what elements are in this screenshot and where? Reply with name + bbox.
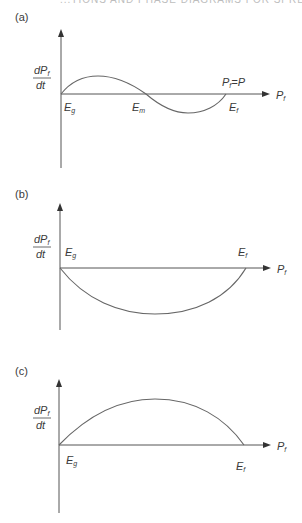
- panel-b: (b) dPf dt Pf Eg Ef: [15, 188, 287, 330]
- svg-text:dPf: dPf: [34, 404, 50, 417]
- point-label-eg: Eg: [65, 246, 76, 260]
- svg-text:dt: dt: [36, 248, 46, 260]
- panel-label: (a): [15, 11, 28, 23]
- x-axis-label: Pf: [277, 263, 287, 276]
- x-axis-arrow-icon: [263, 265, 271, 271]
- y-axis-arrow-icon: [56, 379, 62, 387]
- y-axis-label: dPf dt: [33, 233, 51, 260]
- x-axis-arrow-icon: [263, 442, 271, 448]
- point-label-eg: Eg: [64, 101, 75, 115]
- point-label-em: Em: [132, 101, 145, 114]
- panel-c: (c) dPf dt Pf Eg Ef: [15, 365, 287, 513]
- x-axis-label: Pf: [276, 89, 286, 102]
- svg-text:dt: dt: [36, 79, 46, 91]
- svg-text:dPf: dPf: [34, 64, 50, 77]
- x-axis-arrow-icon: [262, 91, 270, 97]
- y-axis-arrow-icon: [57, 203, 63, 211]
- svg-text:dt: dt: [36, 419, 46, 431]
- y-axis-label: dPf dt: [33, 404, 51, 431]
- point-label-ef: Ef: [236, 460, 246, 473]
- svg-text:dPf: dPf: [34, 233, 50, 246]
- panel-label: (b): [15, 188, 28, 200]
- panel-a: (a) dPf dt Pf Eg Em Ef Pf=P: [15, 11, 286, 168]
- annotation-pf-equals-p: Pf=P: [222, 76, 246, 89]
- point-label-ef: Ef: [238, 246, 248, 259]
- point-label-eg: Eg: [66, 454, 77, 468]
- phase-curve: [60, 268, 246, 314]
- panel-label: (c): [15, 365, 28, 377]
- x-axis-label: Pf: [277, 440, 287, 453]
- y-axis-arrow-icon: [58, 29, 64, 37]
- phase-curve: [59, 399, 244, 445]
- y-axis-label: dPf dt: [33, 64, 51, 91]
- phase-diagram-figure: (a) dPf dt Pf Eg Em Ef Pf=P (b) dPf: [0, 0, 302, 523]
- point-label-ef: Ef: [229, 101, 239, 114]
